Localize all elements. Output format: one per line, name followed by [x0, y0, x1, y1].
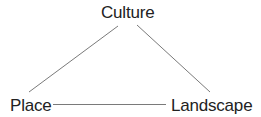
node-culture: Culture: [101, 4, 154, 21]
node-landscape: Landscape: [171, 97, 252, 114]
edge-culture-landscape: [137, 25, 210, 92]
edge-culture-place: [29, 26, 118, 92]
node-place: Place: [10, 97, 52, 114]
